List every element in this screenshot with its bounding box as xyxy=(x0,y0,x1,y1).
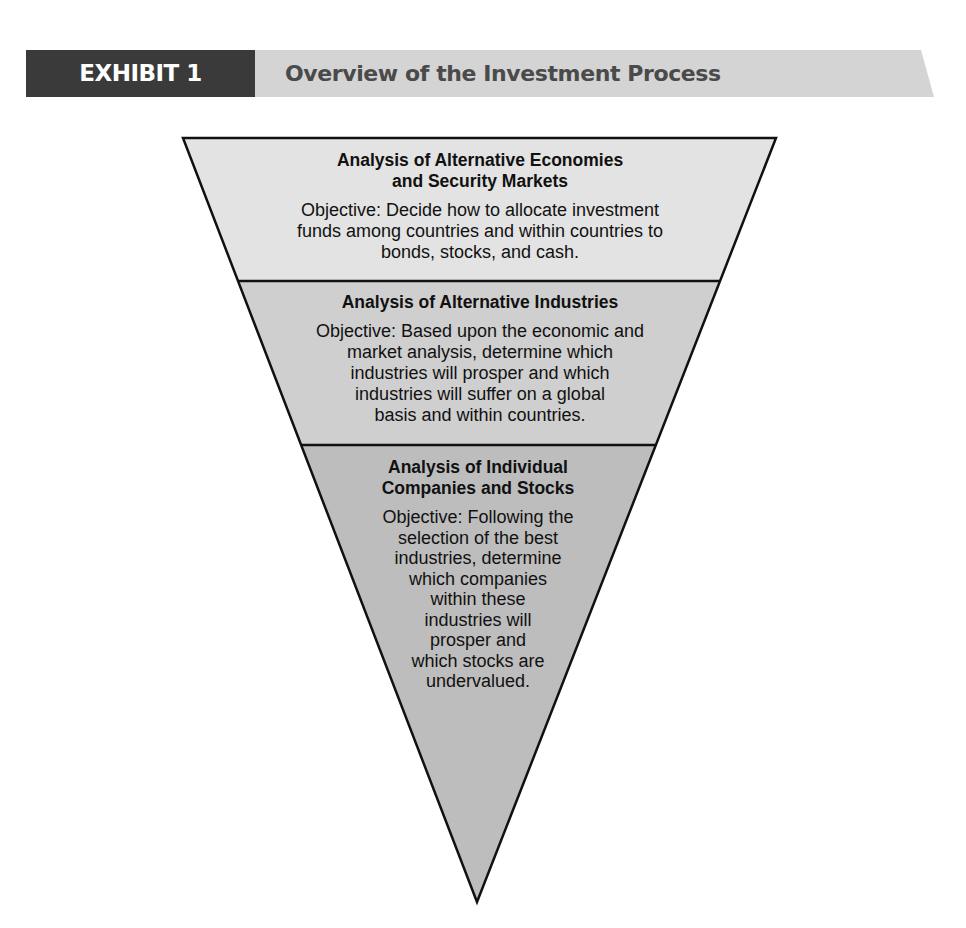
tier-economies: Analysis of Alternative Economies and Se… xyxy=(230,150,730,263)
tier-industries: Analysis of Alternative Industries Objec… xyxy=(250,292,710,426)
tier-companies: Analysis of Individual Companies and Sto… xyxy=(328,457,628,692)
tier-objective: Objective: Decide how to allocate invest… xyxy=(230,200,730,263)
tier-objective: Objective: Following the selection of th… xyxy=(328,507,628,692)
tier-objective: Objective: Based upon the economic and m… xyxy=(250,321,710,426)
tier-heading: Analysis of Alternative Industries xyxy=(250,292,710,313)
tier-heading: Analysis of Alternative Economies and Se… xyxy=(230,150,730,192)
tier-heading: Analysis of Individual Companies and Sto… xyxy=(328,457,628,499)
